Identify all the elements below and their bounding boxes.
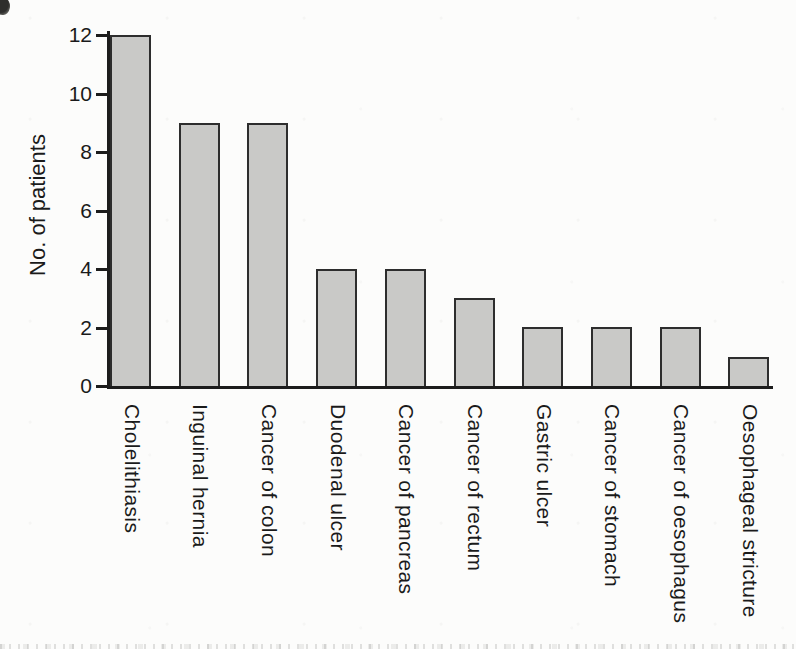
x-category-label: Cancer of pancreas	[392, 404, 418, 594]
x-category-label: Cancer of stomach	[598, 404, 624, 587]
x-category-label: Cholelithiasis	[118, 404, 144, 533]
bar	[110, 35, 151, 386]
scan-bottom-edge-artifact	[0, 644, 796, 649]
x-category-label: Duodenal ulcer	[324, 404, 350, 551]
bar	[454, 298, 495, 386]
x-category-label: Cancer of colon	[255, 404, 281, 557]
y-tick-label: 12	[48, 23, 92, 46]
x-category-label: Cancer of rectum	[461, 404, 487, 571]
y-tick	[96, 268, 107, 271]
bar	[728, 357, 769, 386]
y-tick-label: 0	[48, 374, 92, 397]
bar	[660, 327, 701, 386]
bar	[385, 269, 426, 386]
x-category-label: Inguinal hernia	[186, 404, 212, 548]
y-tick	[96, 151, 107, 154]
y-tick-label: 2	[48, 316, 92, 339]
y-tick	[96, 34, 107, 37]
bar	[179, 123, 220, 386]
x-category-label: Cancer of oesophagus	[667, 404, 693, 623]
y-tick	[96, 210, 107, 213]
y-tick	[96, 93, 107, 96]
scanned-bar-chart-figure: No. of patients 024681012 Cholelithiasis…	[0, 0, 796, 649]
y-tick-label: 10	[48, 82, 92, 105]
y-tick-label: 4	[48, 257, 92, 280]
scan-corner-artifact	[0, 0, 11, 16]
bar	[522, 327, 563, 386]
bar	[591, 327, 632, 386]
y-tick	[96, 327, 107, 330]
y-tick	[96, 385, 107, 388]
bar	[316, 269, 357, 386]
x-category-label: Oesophageal stricture	[736, 404, 762, 618]
y-tick-label: 6	[48, 199, 92, 222]
plot-area	[107, 31, 773, 389]
y-tick-label: 8	[48, 140, 92, 163]
x-category-label: Gastric ulcer	[530, 404, 556, 527]
bar	[247, 123, 288, 386]
